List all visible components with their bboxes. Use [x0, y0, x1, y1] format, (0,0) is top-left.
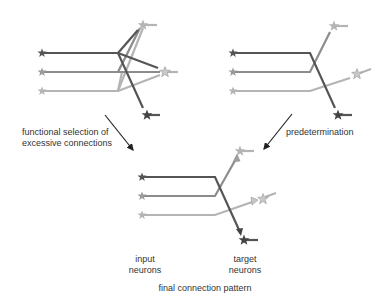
axon-mid [42, 28, 160, 72]
axon-dark [42, 30, 158, 108]
final-connection-panel [138, 146, 277, 245]
target-neuron-star [352, 69, 363, 79]
final-pattern-label: final connection pattern [130, 283, 280, 294]
neural-connection-diagram [0, 0, 388, 303]
target-neurons-label: target neurons [220, 254, 270, 276]
label-line: neurons [120, 265, 170, 276]
excessive-connections-panel [38, 20, 179, 120]
axon-light [142, 201, 255, 215]
axon-dark [233, 53, 335, 108]
target-neuron-star [258, 194, 269, 204]
label-line: predetermination [286, 127, 354, 138]
axon-light [42, 28, 160, 91]
axon-light [233, 78, 350, 91]
label-line: input [120, 254, 170, 265]
synapse-terminal [251, 197, 258, 205]
target-neuron-star [160, 67, 171, 77]
synapse-terminal [233, 154, 240, 162]
predetermined-panel [229, 21, 372, 120]
label-line: target [220, 254, 270, 265]
input-neurons-label: input neurons [120, 254, 170, 276]
predetermination-label: predetermination [286, 127, 354, 138]
functional-selection-label: functional selection of excessive connec… [22, 127, 112, 149]
synapse-terminal [236, 228, 243, 236]
label-line: excessive connections [22, 138, 112, 149]
label-line: functional selection of [22, 127, 112, 138]
label-line: neurons [220, 265, 270, 276]
label-line: final connection pattern [130, 283, 280, 294]
axon-dark [142, 177, 240, 232]
